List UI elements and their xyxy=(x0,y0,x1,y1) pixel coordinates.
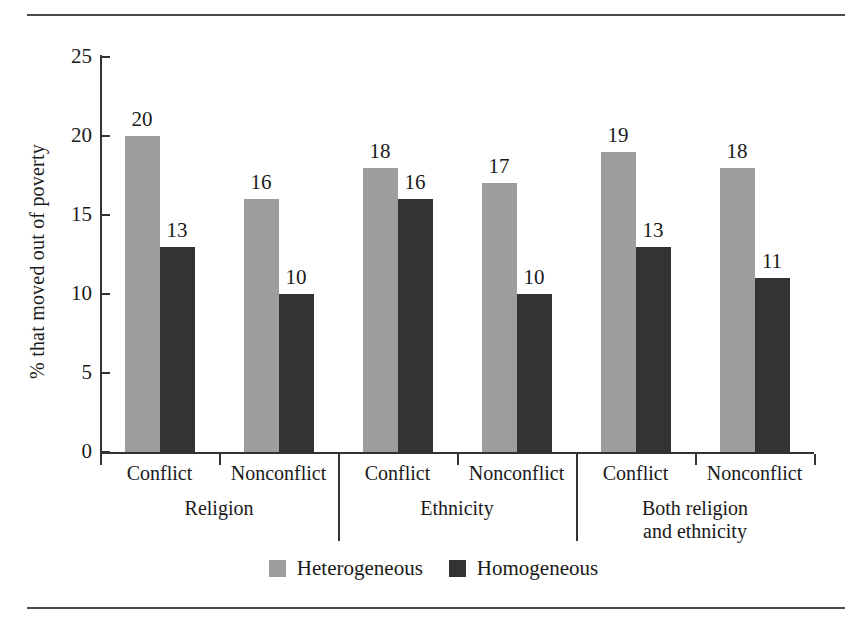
bar-value-label: 10 xyxy=(273,267,319,288)
chart-figure: % that moved out of poverty 0510152025 2… xyxy=(0,0,867,628)
bar-homogeneous-4 xyxy=(636,247,671,452)
y-tick-label: 5 xyxy=(52,362,92,383)
bar-heterogeneous-4 xyxy=(601,152,636,452)
bar-homogeneous-2 xyxy=(398,199,433,452)
y-tick-label: 25 xyxy=(52,46,92,67)
bar-value-label: 13 xyxy=(630,220,676,241)
legend-label-heterogeneous: Heterogeneous xyxy=(297,556,423,581)
bar-homogeneous-1 xyxy=(279,294,314,452)
bar-value-label: 20 xyxy=(119,109,165,130)
y-axis-label: % that moved out of poverty xyxy=(26,62,49,462)
top-divider-rule xyxy=(27,14,845,16)
bar-heterogeneous-5 xyxy=(720,168,755,452)
x-category-label: Nonconflict xyxy=(680,462,830,485)
bar-homogeneous-5 xyxy=(755,278,790,452)
bar-value-label: 17 xyxy=(476,156,522,177)
bar-homogeneous-3 xyxy=(517,294,552,452)
bar-value-label: 13 xyxy=(154,220,200,241)
y-tick-label: 20 xyxy=(52,125,92,146)
bar-heterogeneous-2 xyxy=(363,168,398,452)
group-label: Religion xyxy=(99,497,339,520)
bar-value-label: 10 xyxy=(511,267,557,288)
bars-area xyxy=(100,57,814,452)
legend-item-heterogeneous: Heterogeneous xyxy=(269,556,423,581)
y-tick-label: 15 xyxy=(52,204,92,225)
bar-value-label: 18 xyxy=(357,141,403,162)
bar-value-label: 16 xyxy=(392,172,438,193)
legend-label-homogeneous: Homogeneous xyxy=(477,556,598,581)
bar-homogeneous-0 xyxy=(160,247,195,452)
legend-swatch-homogeneous xyxy=(449,560,466,577)
bar-value-label: 19 xyxy=(595,125,641,146)
bar-value-label: 18 xyxy=(714,141,760,162)
chart-legend: Heterogeneous Homogeneous xyxy=(0,556,867,581)
group-label: Ethnicity xyxy=(337,497,577,520)
legend-item-homogeneous: Homogeneous xyxy=(449,556,598,581)
group-label: Both religionand ethnicity xyxy=(575,497,815,543)
bottom-divider-rule xyxy=(27,607,845,609)
legend-swatch-heterogeneous xyxy=(269,560,286,577)
bar-value-label: 11 xyxy=(749,251,795,272)
y-tick-label: 0 xyxy=(52,441,92,462)
bar-heterogeneous-3 xyxy=(482,183,517,452)
bar-value-label: 16 xyxy=(238,172,284,193)
group-separator xyxy=(576,453,578,541)
y-tick-label: 10 xyxy=(52,283,92,304)
group-separator xyxy=(338,453,340,541)
bar-heterogeneous-1 xyxy=(244,199,279,452)
bar-heterogeneous-0 xyxy=(125,136,160,452)
